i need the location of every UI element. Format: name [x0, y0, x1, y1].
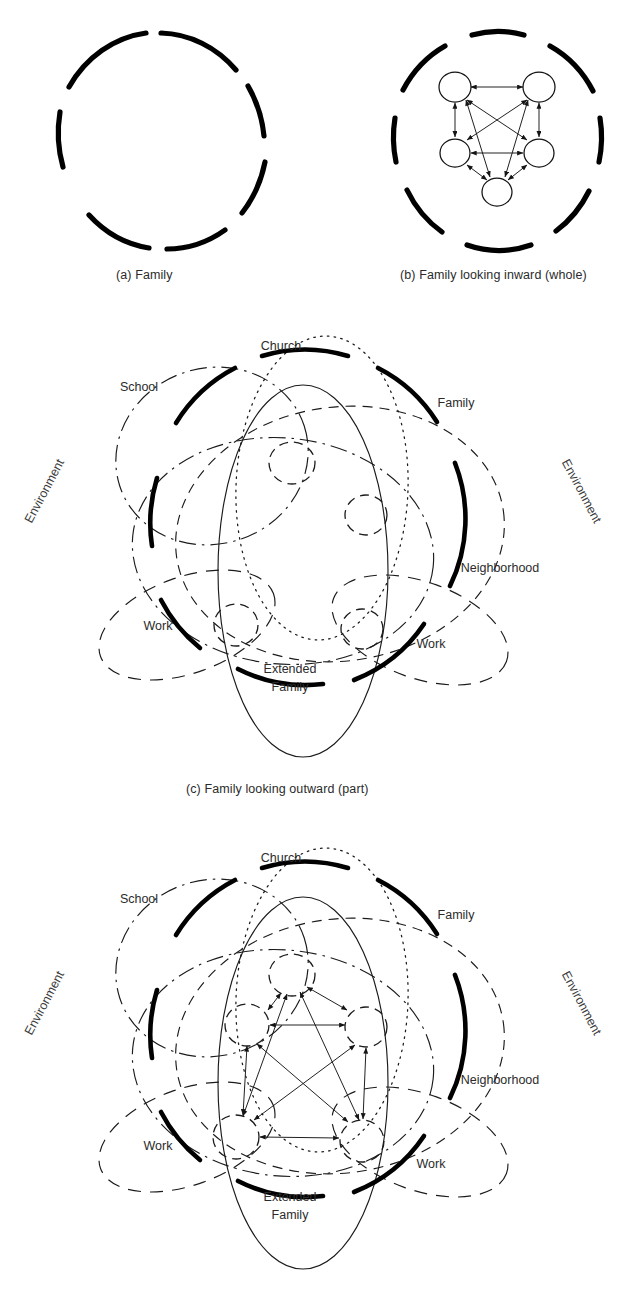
label-church: Church	[261, 851, 301, 865]
community-band	[121, 423, 445, 679]
panel-d: Church School Family Neighborhood Work W…	[0, 820, 624, 1301]
member-network-b	[439, 72, 555, 206]
member-link	[307, 987, 347, 1010]
panel-c-svg: Church School Family Neighborhood Work W…	[0, 318, 624, 778]
member-link	[268, 993, 281, 1010]
family-member-node	[269, 442, 315, 484]
label-work-right: Work	[417, 1157, 447, 1171]
label-family: Family	[438, 396, 476, 410]
label-extended-family-line2: Family	[272, 680, 310, 694]
boundary-arc	[150, 990, 157, 1058]
member-link	[254, 1045, 355, 1120]
panel-b-svg	[372, 14, 622, 264]
label-family: Family	[438, 908, 476, 922]
panel-a-svg	[36, 14, 286, 264]
member-link	[508, 165, 527, 180]
family-open-boundary-d	[150, 862, 465, 1197]
member-link	[300, 992, 359, 1120]
panel-d-svg: Church School Family Neighborhood Work W…	[0, 820, 624, 1301]
extended-family-boundary	[218, 385, 388, 757]
label-school: School	[120, 380, 158, 394]
family-member-node	[345, 1007, 387, 1047]
caption-panel-c: (c) Family looking outward (part)	[186, 782, 369, 796]
boundary-arc	[599, 118, 602, 162]
member-link	[260, 1137, 339, 1138]
family-member-node	[269, 954, 315, 996]
school-boundary	[93, 342, 332, 569]
boundary-arc	[407, 190, 442, 232]
label-environment-left: Environment	[22, 456, 68, 525]
label-work-right: Work	[417, 637, 447, 651]
label-extended-family-line2: Family	[272, 1208, 310, 1222]
family-members-c	[214, 442, 387, 649]
boundary-arc	[69, 33, 146, 87]
boundary-arc	[393, 118, 396, 162]
panel-a	[36, 14, 286, 264]
member-link	[467, 165, 487, 180]
boundary-arc	[354, 1136, 424, 1192]
boundary-arc	[242, 162, 265, 213]
label-extended-family-line1: Extended	[264, 1190, 317, 1204]
family-member-node	[225, 1004, 269, 1046]
member-link	[243, 1046, 247, 1115]
family-member-node	[523, 72, 555, 102]
label-environment-right: Environment	[559, 457, 605, 526]
label-work-left: Work	[144, 619, 174, 633]
family-open-boundary-b	[393, 31, 601, 250]
boundary-arc	[176, 880, 235, 935]
diagram-page: (a) Family	[0, 0, 624, 1301]
boundary-arc	[89, 215, 149, 248]
family-member-node	[345, 495, 387, 535]
caption-panel-a: (a) Family	[116, 268, 173, 282]
label-work-left: Work	[144, 1139, 174, 1153]
label-school: School	[120, 892, 158, 906]
church-boundary	[231, 845, 414, 1155]
boundary-arc	[556, 191, 589, 231]
family-member-node	[524, 139, 554, 167]
label-church: Church	[261, 339, 301, 353]
family-member-node	[439, 72, 471, 102]
boundary-arc	[403, 46, 445, 90]
label-neighborhood: Neighborhood	[461, 1073, 540, 1087]
church-boundary	[231, 333, 414, 643]
member-link	[363, 1048, 366, 1119]
family-open-boundary-a	[58, 33, 265, 249]
label-extended-family-line1: Extended	[264, 662, 317, 676]
panel-b	[372, 14, 622, 264]
label-neighborhood: Neighborhood	[461, 561, 540, 575]
boundary-arc	[378, 368, 437, 422]
label-environment-left: Environment	[22, 968, 68, 1037]
panel-c: Church School Family Neighborhood Work W…	[0, 318, 624, 778]
boundary-arc	[176, 368, 235, 423]
boundary-arc	[167, 230, 225, 249]
family-member-node	[340, 1120, 384, 1162]
boundary-arc	[248, 86, 264, 136]
boundary-arc	[161, 33, 236, 70]
family-member-node	[482, 178, 512, 206]
boundary-arc	[354, 624, 424, 680]
boundary-arc	[472, 31, 524, 35]
school-boundary	[93, 854, 332, 1081]
label-environment-right: Environment	[559, 969, 605, 1038]
family-member-node	[341, 609, 383, 649]
member-network-d	[213, 954, 387, 1162]
boundary-arc	[550, 46, 593, 91]
boundary-arc	[467, 245, 531, 250]
caption-panel-b: (b) Family looking inward (whole)	[400, 268, 587, 282]
boundary-arc	[378, 880, 437, 934]
family-member-node	[214, 604, 258, 646]
family-open-boundary-c	[150, 350, 465, 685]
member-link	[257, 1044, 348, 1122]
boundary-arc	[58, 112, 63, 167]
family-member-node	[440, 139, 470, 167]
boundary-arc	[150, 478, 157, 546]
